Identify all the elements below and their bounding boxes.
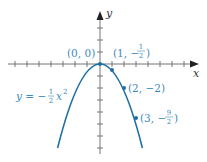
svg-text:9: 9: [167, 109, 171, 117]
label-point-3: (3, − 9 2 ): [140, 109, 178, 126]
y-axis: [97, 18, 103, 154]
svg-text:): ): [174, 112, 178, 124]
svg-text:1: 1: [49, 88, 53, 96]
point-origin: [98, 62, 102, 66]
svg-text:2: 2: [167, 118, 171, 126]
svg-text:2: 2: [63, 88, 67, 96]
svg-text:): ): [146, 47, 150, 59]
point-1: [110, 68, 114, 72]
parabola-diagram: x y (0, 0) (1, − 1 2 ) (2, −2) (3, − 9 2…: [0, 0, 207, 162]
svg-text:(3, −: (3, −: [140, 112, 166, 124]
svg-text:1: 1: [139, 43, 143, 51]
svg-text:(1, −: (1, −: [113, 47, 139, 59]
point-2: [122, 86, 126, 90]
svg-text:y = −: y = −: [15, 90, 46, 102]
equation-label: y = − 1 2 x 2: [15, 88, 67, 105]
svg-text:2: 2: [49, 97, 53, 105]
y-axis-arrow-icon: [97, 11, 104, 20]
y-axis-label: y: [105, 7, 113, 20]
x-axis-label: x: [193, 67, 200, 80]
label-origin: (0, 0): [67, 47, 95, 59]
svg-text:x: x: [56, 90, 62, 102]
point-3: [134, 116, 138, 120]
label-point-2: (2, −2): [128, 82, 165, 94]
label-point-1: (1, − 1 2 ): [113, 43, 150, 60]
svg-text:2: 2: [139, 52, 143, 60]
